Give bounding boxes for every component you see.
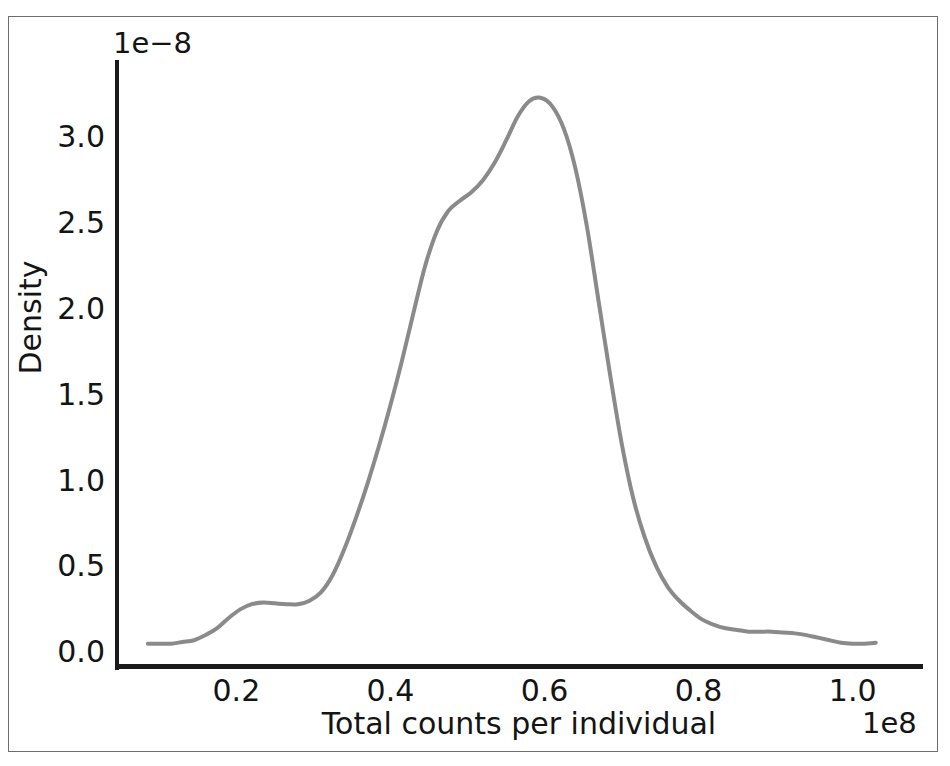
figure-border [8, 16, 938, 752]
y-tick-label: 1.5 [57, 380, 105, 410]
x-tick-label: 1.0 [829, 673, 877, 708]
y-axis-spine [115, 60, 119, 670]
x-tick: 0.6 [485, 676, 605, 706]
x-axis-spine [115, 664, 923, 669]
y-axis-offset-text: 1e−8 [113, 26, 192, 60]
y-tick-label: 2.0 [57, 294, 105, 324]
y-tick-label: 2.5 [57, 208, 105, 238]
x-tick: 0.8 [639, 676, 759, 706]
x-tick-label: 0.2 [213, 673, 261, 708]
x-tick-label: 0.8 [675, 673, 723, 708]
x-axis-offset-text: 1e8 [862, 706, 917, 740]
x-tick-label: 0.4 [367, 673, 415, 708]
x-tick: 0.4 [330, 676, 450, 706]
y-tick-label: 0.5 [57, 551, 105, 581]
y-tick-label: 3.0 [57, 122, 105, 152]
x-tick: 1.0 [793, 676, 913, 706]
x-axis-label: Total counts per individual [115, 706, 923, 741]
y-tick-label: 1.0 [57, 466, 105, 496]
x-tick: 0.2 [176, 676, 296, 706]
y-tick-label: 0.0 [57, 637, 105, 667]
y-axis-label: Density [13, 218, 48, 418]
figure-canvas: 1e−8 Density Total counts per individual… [0, 0, 950, 766]
x-tick-label: 0.6 [521, 673, 569, 708]
